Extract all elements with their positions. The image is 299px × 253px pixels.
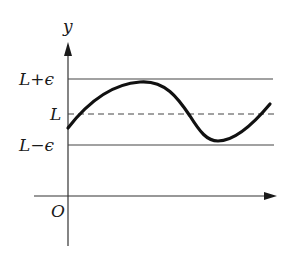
y-axis-arrow-icon [64, 42, 72, 56]
y-axis-label: y [63, 18, 73, 35]
x-axis-arrow-icon [264, 192, 277, 200]
lower-bound-label: L−ϵ [19, 137, 54, 154]
limit-label: L [50, 106, 61, 123]
diagram-canvas [0, 0, 299, 253]
function-curve [68, 82, 270, 141]
origin-label: O [51, 203, 65, 220]
upper-bound-label: L+ϵ [19, 71, 54, 88]
